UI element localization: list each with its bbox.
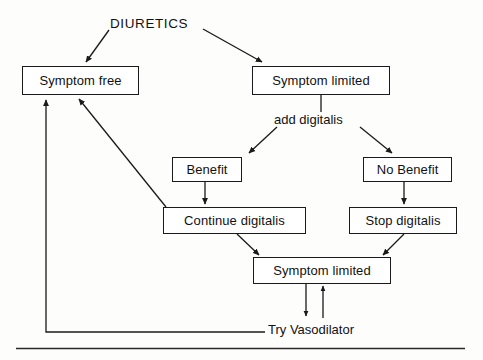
node-symptom-free: Symptom free [22,66,139,95]
node-stop-digitalis: Stop digitalis [349,207,457,234]
node-continue-digitalis: Continue digitalis [163,207,306,234]
node-benefit: Benefit [172,157,242,182]
node-no-benefit: No Benefit [363,157,452,182]
edge-continue-digitalis-to-symptom-limited [237,234,259,255]
label-try-vasodilator: Try Vasodilator [268,323,354,336]
node-symptom-limited-bottom: Symptom limited [253,257,391,284]
label-add-digitalis: add digitalis [274,113,343,126]
flowchart-page: DIURETICS add digitalis Try Vasodilator … [0,0,483,360]
edge-add-digitalis-to-no-benefit [360,127,392,153]
edge-diuretics-to-symptom-limited [203,29,262,62]
edge-stop-digitalis-to-symptom-limited [383,234,404,255]
edge-add-digitalis-to-benefit [249,127,277,153]
node-symptom-limited-top: Symptom limited [252,66,390,95]
label-diuretics: DIURETICS [110,17,188,31]
edge-continue-digitalis-to-symptom-free [79,99,166,207]
edge-diuretics-to-symptom-free [86,30,109,62]
